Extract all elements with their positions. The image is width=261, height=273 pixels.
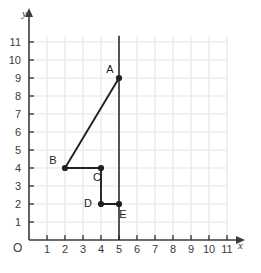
segments-group	[65, 78, 119, 204]
x-tick-label: 8	[170, 243, 176, 255]
y-tick-label: 1	[15, 216, 21, 228]
tick-marks-group	[29, 42, 227, 240]
point-labels-group: ABCDE	[49, 63, 126, 220]
point-b	[62, 165, 68, 171]
x-tick-label: 6	[134, 243, 140, 255]
x-tick-label: 7	[152, 243, 158, 255]
x-tick-label: 5	[116, 243, 122, 255]
axes-group	[25, 8, 245, 244]
point-label-b: B	[49, 154, 56, 166]
segment-a-b	[65, 78, 119, 168]
x-tick-label: 4	[98, 243, 104, 255]
point-label-e: E	[119, 208, 126, 220]
x-tick-label: 3	[80, 243, 86, 255]
y-tick-label: 8	[15, 90, 21, 102]
y-tick-label: 11	[10, 36, 21, 48]
x-tick-label: 9	[188, 243, 194, 255]
y-tick-label: 3	[15, 180, 21, 192]
gridlines-group	[29, 37, 228, 240]
y-tick-label: 6	[15, 126, 21, 138]
point-label-d: D	[84, 197, 92, 209]
y-tick-label: 10	[9, 54, 21, 66]
x-tick-label: 11	[221, 243, 232, 255]
point-label-a: A	[106, 63, 114, 75]
coordinate-plane-svg: 12345678910111234567891011 ABCDE x y O	[0, 0, 261, 273]
y-tick-label: 7	[15, 108, 21, 120]
points-group	[62, 75, 122, 207]
y-tick-label: 2	[15, 198, 21, 210]
point-e	[116, 201, 122, 207]
y-tick-label: 5	[15, 144, 21, 156]
origin-label: O	[13, 241, 22, 255]
x-axis-label: x	[237, 239, 243, 251]
x-tick-label: 1	[44, 243, 50, 255]
y-axis-label: y	[21, 7, 27, 19]
y-tick-label: 4	[15, 162, 21, 174]
point-a	[116, 75, 122, 81]
coordinate-grid-figure: 12345678910111234567891011 ABCDE x y O	[0, 0, 261, 273]
x-tick-label: 2	[62, 243, 68, 255]
point-label-c: C	[93, 171, 101, 183]
x-tick-label: 10	[203, 243, 215, 255]
y-tick-label: 9	[15, 72, 21, 84]
point-d	[98, 201, 104, 207]
